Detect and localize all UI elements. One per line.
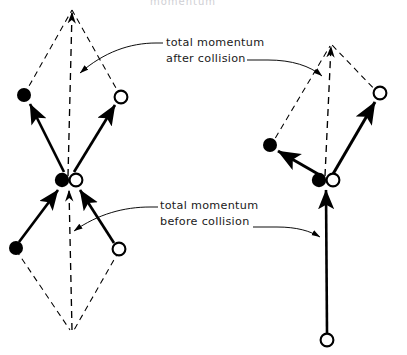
right-collision-body-filled (312, 173, 326, 187)
leader-before-curve-left (74, 207, 150, 231)
left-body-before-filled (9, 241, 23, 255)
left-collision-body-hollow (70, 174, 83, 187)
right-body-after-filled (263, 138, 277, 152)
right-diagram (263, 45, 386, 346)
leader-after-curve-left (80, 43, 156, 73)
leader-before-curve-right (277, 227, 320, 237)
right-vector-after-hollow (333, 102, 375, 174)
left-vector-before-filled (19, 190, 58, 242)
left-parallelogram-before (16, 250, 119, 330)
left-parallelogram-after (24, 10, 121, 97)
label-before-line2: before collision (160, 215, 258, 228)
right-body-before-hollow (321, 334, 334, 347)
left-body-after-filled (17, 88, 31, 102)
right-vector-before-hollow (326, 190, 327, 333)
left-resultant-after (68, 12, 72, 176)
left-vector-after-hollow (74, 105, 115, 172)
right-parallelogram-after (270, 45, 380, 147)
figure-canvas: momentum (0, 0, 407, 355)
left-body-after-hollow (115, 91, 128, 104)
right-body-after-hollow (374, 87, 387, 100)
left-diagram (9, 10, 127, 330)
label-after-line1: total momentum (166, 36, 264, 49)
label-before-line1: total momentum (160, 199, 258, 212)
right-vector-after-filled (278, 151, 318, 174)
label-after-line2: after collision (166, 52, 264, 65)
label-before-collision: total momentum before collision (160, 199, 258, 228)
left-resultant-before (69, 190, 72, 330)
right-collision-body-hollow (327, 174, 340, 187)
label-after-collision: total momentum after collision (166, 36, 264, 65)
left-collision-body-filled (55, 173, 69, 187)
right-resultant-after (325, 46, 331, 176)
left-vector-before-hollow (80, 190, 114, 243)
left-body-before-hollow (113, 243, 126, 256)
left-vector-after-filled (30, 104, 64, 172)
